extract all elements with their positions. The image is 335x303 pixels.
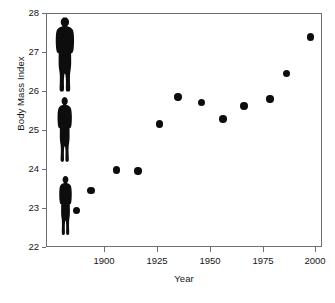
x-tick-label: 1975: [243, 255, 283, 266]
data-point: [266, 95, 273, 102]
x-tick-label: 2000: [295, 255, 335, 266]
plot-area: [46, 13, 322, 247]
y-tick-mark: [42, 13, 46, 14]
human-silhouette-slim-icon: [58, 175, 73, 247]
y-tick-mark: [42, 169, 46, 170]
y-axis-label: Body Mass Index: [15, 34, 26, 154]
x-tick-label: 1925: [137, 255, 177, 266]
human-silhouette-medium-icon: [56, 96, 74, 170]
bmi-scatter-chart-figure: Body Mass Index 22 23 24 25 26 27 28 190…: [0, 0, 335, 303]
y-tick-mark: [42, 130, 46, 131]
y-tick-mark: [42, 52, 46, 53]
y-tick-mark: [42, 208, 46, 209]
data-point: [240, 102, 247, 109]
x-tick-mark: [315, 247, 316, 252]
y-tick-label: 24: [28, 163, 39, 174]
x-tick-label: 1900: [84, 255, 124, 266]
human-silhouette-heavy-icon: [53, 16, 77, 92]
y-tick-label: 27: [28, 46, 39, 57]
y-tick-label: 25: [28, 124, 39, 135]
y-tick-mark: [42, 91, 46, 92]
data-point: [307, 33, 314, 40]
y-tick-mark: [42, 247, 46, 248]
data-point: [87, 187, 94, 194]
x-tick-label: 1950: [190, 255, 230, 266]
y-tick-label: 28: [28, 7, 39, 18]
x-tick-mark: [263, 247, 264, 252]
x-axis-label: Year: [46, 273, 322, 284]
y-tick-label: 23: [28, 202, 39, 213]
x-tick-mark: [210, 247, 211, 252]
x-tick-mark: [104, 247, 105, 252]
data-point: [134, 167, 141, 174]
data-point: [156, 120, 163, 127]
y-tick-label: 26: [28, 85, 39, 96]
data-point: [174, 93, 181, 100]
y-tick-label: 22: [28, 241, 39, 252]
x-tick-mark: [157, 247, 158, 252]
data-point: [219, 115, 226, 122]
